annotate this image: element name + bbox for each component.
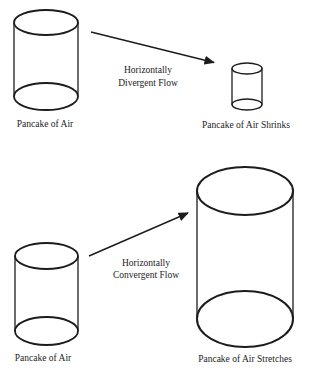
divergent-flow-arrow [91,32,214,63]
convergent-flow-label-line2: Convergent Flow [113,270,179,280]
diagram-page: Pancake of Air Horizontally Divergent Fl… [0,0,327,375]
convergent-flow-arrow [89,213,188,256]
convergent-flow-section: Pancake of Air Horizontally Convergent F… [15,167,293,364]
divergent-flow-section: Pancake of Air Horizontally Divergent Fl… [14,10,290,130]
pancake-of-air-flow-diagram: Pancake of Air Horizontally Divergent Fl… [0,0,327,375]
source-cylinder-divergent [14,10,78,110]
stretched-cylinder-label: Pancake of Air Stretches [198,354,292,364]
stretched-cylinder [197,167,293,347]
source-cylinder-convergent [15,243,78,345]
shrunken-cylinder-label: Pancake of Air Shrinks [202,120,290,130]
source-cylinder-divergent-label: Pancake of Air [17,119,74,129]
shrunken-cylinder [232,63,262,110]
convergent-flow-label-line1: Horizontally [122,258,170,268]
divergent-flow-label-line1: Horizontally [124,65,172,75]
source-cylinder-convergent-label: Pancake of Air [15,353,72,363]
divergent-flow-label-line2: Divergent Flow [118,78,178,88]
